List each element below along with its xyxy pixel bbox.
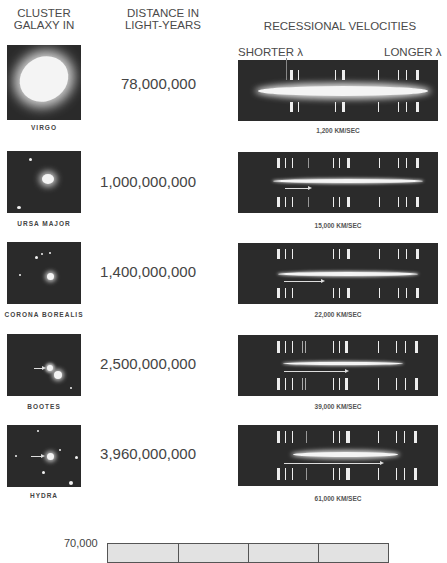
galaxy-image-hydra: [7, 425, 81, 487]
galaxy-image-ursa-major: [7, 151, 81, 213]
distance-value: 3,960,000,000: [100, 445, 196, 462]
header-distance-line1: DISTANCE IN: [118, 7, 208, 19]
chart-gridline: [318, 544, 319, 562]
chart-y-axis-label-top: 70,000: [64, 537, 98, 549]
spectrum-hydra: [238, 425, 438, 486]
header-cluster-line1: CLUSTER: [4, 7, 84, 19]
velocity-value: 1,200 KM/SEC: [238, 127, 438, 134]
spectrum-bootes: [238, 335, 438, 396]
spectrum-ursa-major: [238, 152, 438, 213]
distance-value: 2,500,000,000: [100, 355, 196, 372]
velocity-distance-chart: [107, 543, 389, 563]
label-longer-wavelength: LONGER λ: [384, 46, 442, 58]
galaxy-image-virgo: [7, 45, 81, 120]
header-distance: DISTANCE IN LIGHT-YEARS: [118, 7, 208, 31]
cluster-name: BOOTES: [0, 403, 88, 410]
cluster-name: CORONA BOREALIS: [0, 311, 88, 318]
galaxy-image-bootes: [7, 334, 81, 396]
header-velocities: RECESSIONAL VELOCITIES: [250, 20, 430, 32]
cluster-name: HYDRA: [0, 492, 88, 499]
chart-gridline: [178, 544, 179, 562]
distance-value: 78,000,000: [100, 75, 196, 92]
cluster-name: VIRGO: [0, 124, 88, 131]
distance-value: 1,400,000,000: [100, 263, 196, 280]
galaxy-image-corona-borealis: [7, 242, 81, 304]
cluster-name: URSA MAJOR: [0, 220, 88, 227]
velocity-value: 15,000 KM/SEC: [238, 222, 438, 229]
spectrum-virgo: [238, 60, 438, 121]
shorter-wavelength-pointer: [286, 58, 287, 80]
label-shorter-wavelength: SHORTER λ: [238, 46, 303, 58]
spectrum-corona-borealis: [238, 243, 438, 304]
velocity-value: 61,000 KM/SEC: [238, 495, 438, 502]
chart-gridline: [248, 544, 249, 562]
velocity-value: 22,000 KM/SEC: [238, 311, 438, 318]
header-cluster: CLUSTER GALAXY IN: [4, 7, 84, 31]
distance-value: 1,000,000,000: [100, 173, 196, 190]
header-cluster-line2: GALAXY IN: [4, 19, 84, 31]
velocity-value: 39,000 KM/SEC: [238, 403, 438, 410]
header-distance-line2: LIGHT-YEARS: [118, 19, 208, 31]
